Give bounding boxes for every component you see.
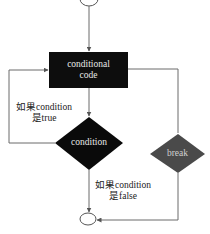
true-label-line1: 如果condition [13, 102, 75, 113]
false-label-line1: 如果condition [92, 180, 154, 191]
false-branch-label: 如果condition 是false [92, 180, 154, 202]
process-label: conditional code [49, 59, 128, 81]
condition-label: condition [55, 137, 123, 148]
break-label: break [150, 148, 205, 159]
true-branch-label: 如果condition 是true [13, 102, 75, 124]
process-label-line2: code [49, 70, 128, 81]
process-label-line1: conditional [49, 59, 128, 70]
edge-process-to-break [128, 69, 178, 133]
end-oval [80, 213, 96, 225]
start-oval [80, 0, 98, 6]
false-label-line2: 是false [92, 191, 154, 202]
true-label-line2: 是true [13, 113, 75, 124]
